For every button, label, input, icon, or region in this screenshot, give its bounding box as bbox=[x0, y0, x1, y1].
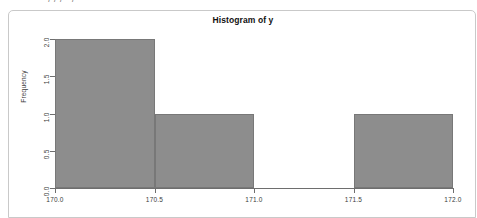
y-tick-label: 1.0 bbox=[44, 112, 51, 122]
y-tick-label: 0.5 bbox=[44, 149, 51, 159]
chart-title: Histogram of y bbox=[9, 15, 477, 25]
x-tick-mark bbox=[453, 188, 454, 193]
histogram-bar bbox=[155, 114, 255, 189]
x-tick-mark bbox=[55, 188, 56, 193]
plot-panel: Histogram of y Frequency 0.00.51.01.52.0… bbox=[8, 10, 476, 218]
y-tick-label: 1.5 bbox=[44, 75, 51, 85]
y-tick-label: 0.0 bbox=[44, 187, 51, 197]
y-tick-label-wrap: 2.0 bbox=[23, 34, 47, 44]
clipped-text-strip: —— — — / / / · / · — bbox=[0, 0, 477, 8]
clipped-text: —— — — / / / · / · — bbox=[2, 0, 94, 4]
x-tick-mark bbox=[155, 188, 156, 193]
x-tick-mark bbox=[254, 188, 255, 193]
y-axis-label: Frequency bbox=[20, 57, 27, 117]
histogram-plot: Histogram of y Frequency 0.00.51.01.52.0… bbox=[9, 11, 477, 218]
histogram-bar bbox=[55, 39, 155, 188]
y-tick-label-wrap: 1.5 bbox=[23, 71, 47, 81]
x-tick-label: 172.0 bbox=[433, 196, 473, 203]
x-tick-mark bbox=[354, 188, 355, 193]
x-tick-label: 170.0 bbox=[35, 196, 75, 203]
y-tick-label-wrap: 0.5 bbox=[23, 146, 47, 156]
x-tick-label: 170.5 bbox=[135, 196, 175, 203]
histogram-bar bbox=[354, 114, 454, 189]
x-tick-label: 171.0 bbox=[234, 196, 274, 203]
x-tick-label: 171.5 bbox=[334, 196, 374, 203]
y-tick-label: 2.0 bbox=[44, 38, 51, 48]
y-tick-label-wrap: 0.0 bbox=[23, 183, 47, 193]
y-tick-label-wrap: 1.0 bbox=[23, 109, 47, 119]
